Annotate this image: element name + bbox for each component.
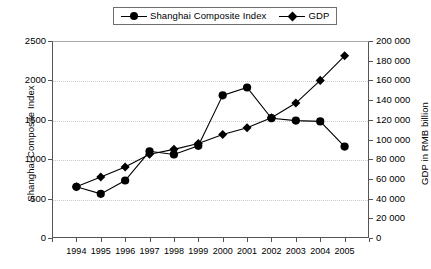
- y-axis-right-tick-label: 140 000: [376, 95, 410, 105]
- y-axis-right-tick: [369, 41, 373, 42]
- y-axis-right-tick-label: 0: [376, 233, 381, 243]
- legend-label-shanghai-composite-index: Shanghai Composite Index: [150, 11, 266, 21]
- gridline: [53, 200, 368, 201]
- y-axis-left-tick-label: 1500: [25, 115, 46, 125]
- y-axis-right-tick: [369, 100, 373, 101]
- x-axis-tick: [150, 238, 151, 242]
- y-axis-right-title: GDP in RMB billion: [419, 64, 430, 224]
- y-axis-right-tick: [369, 179, 373, 180]
- y-axis-left-tick: [48, 199, 52, 200]
- y-axis-left-tick: [48, 120, 52, 121]
- gridline: [53, 121, 368, 122]
- y-axis-right-tick-label: 20 000: [376, 213, 405, 223]
- y-axis-left-tick-label: 500: [30, 194, 46, 204]
- x-axis-tick: [345, 238, 346, 242]
- x-axis-tick: [369, 238, 370, 242]
- y-axis-left-tick-label: 0: [41, 233, 46, 243]
- y-axis-right-tick: [369, 199, 373, 200]
- y-axis-left-tick-label: 1000: [25, 154, 46, 164]
- y-axis-right-tick: [369, 120, 373, 121]
- x-axis-tick: [296, 238, 297, 242]
- y-axis-left-tick-label: 2500: [25, 36, 46, 46]
- y-axis-right-tick-label: 40 000: [376, 194, 405, 204]
- gridline: [53, 81, 368, 82]
- y-axis-right-tick: [369, 80, 373, 81]
- y-axis-right-tick: [369, 140, 373, 141]
- y-axis-right-tick: [369, 61, 373, 62]
- chart-legend: Shanghai Composite Index GDP: [113, 7, 337, 25]
- y-axis-right-tick-label: 60 000: [376, 174, 405, 184]
- y-axis-right-tick: [369, 218, 373, 219]
- legend-marker-circle-icon: [121, 11, 147, 21]
- y-axis-right-tick-label: 200 000: [376, 36, 410, 46]
- legend-label-gdp: GDP: [308, 11, 329, 21]
- x-axis-tick: [101, 238, 102, 242]
- x-axis-tick: [125, 238, 126, 242]
- legend-marker-diamond-icon: [279, 11, 305, 21]
- legend-item-gdp: GDP: [279, 11, 329, 21]
- y-axis-left-tick: [48, 41, 52, 42]
- x-axis-tick: [52, 238, 53, 242]
- x-axis-tick: [320, 238, 321, 242]
- y-axis-right-tick-label: 120 000: [376, 115, 410, 125]
- x-axis-tick: [247, 238, 248, 242]
- x-axis-tick: [174, 238, 175, 242]
- y-axis-right-tick: [369, 159, 373, 160]
- y-axis-left-tick: [48, 159, 52, 160]
- gridline: [53, 160, 368, 161]
- x-axis-tick: [198, 238, 199, 242]
- y-axis-right-tick-label: 80 000: [376, 154, 405, 164]
- x-axis-tick: [271, 238, 272, 242]
- y-axis-right-tick-label: 160 000: [376, 75, 410, 85]
- x-axis-tick-label: 2005: [325, 247, 365, 256]
- legend-item-shanghai-composite-index: Shanghai Composite Index: [121, 11, 266, 21]
- y-axis-right-tick-label: 180 000: [376, 56, 410, 66]
- plot-area: [52, 41, 369, 238]
- y-axis-left-tick-label: 2000: [25, 75, 46, 85]
- y-axis-right-tick-label: 100 000: [376, 135, 410, 145]
- y-axis-left-tick: [48, 80, 52, 81]
- dual-axis-line-chart: Shanghai Composite Index GDP Shanghai Co…: [0, 0, 431, 269]
- x-axis-tick: [223, 238, 224, 242]
- x-axis-tick: [76, 238, 77, 242]
